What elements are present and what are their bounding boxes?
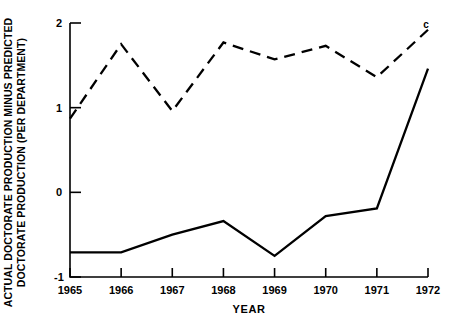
y-tick-label-neg1: -1 [54,271,64,283]
y-tick-label-2: 2 [56,17,62,29]
x-tick-label-1967: 1967 [160,284,184,296]
x-tick-label-1970: 1970 [313,284,337,296]
x-tick-label-1966: 1966 [109,284,133,296]
x-axis-label: YEAR [233,303,266,315]
y-tick-label-0: 0 [56,186,62,198]
x-tick-label-1971: 1971 [365,284,389,296]
series-line-dashed-series [70,30,428,119]
series-annotation-c: c [423,19,429,30]
x-tick-label-1968: 1968 [211,284,235,296]
x-tick-label-1972: 1972 [416,284,440,296]
x-tick-label-1965: 1965 [58,284,82,296]
x-tick-label-1969: 1969 [262,284,286,296]
y-tick-label-1: 1 [56,102,62,114]
plot-area [0,0,462,325]
chart-figure: ACTUAL DOCTORATE PRODUCTION MINUS PREDIC… [0,0,462,325]
series-line-solid-series [70,69,428,256]
